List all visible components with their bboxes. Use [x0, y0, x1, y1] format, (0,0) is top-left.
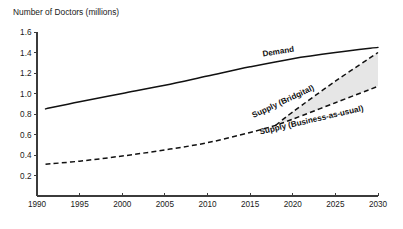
- y-tick-label: 0.8: [20, 110, 32, 119]
- y-tick-label: 1.4: [20, 49, 32, 58]
- y-tick-label: 1.2: [20, 69, 32, 78]
- x-tick-label: 2010: [198, 200, 217, 209]
- y-tick-label: 1.0: [20, 90, 32, 99]
- x-tick-label: 2005: [156, 200, 175, 209]
- y-tick-label: 0.2: [20, 172, 32, 181]
- series-label-demand: Demand: [262, 45, 295, 59]
- x-tick-label: 2030: [369, 200, 388, 209]
- x-tick-label: 2020: [284, 200, 303, 209]
- chart-axis-title: Number of Doctors (millions): [13, 7, 119, 17]
- y-tick-label: 0.4: [20, 151, 32, 160]
- x-tick-label: 2025: [326, 200, 345, 209]
- x-tick-label: 1995: [71, 200, 90, 209]
- x-tick-label: 2015: [241, 200, 260, 209]
- x-tick-label: 1990: [28, 200, 47, 209]
- doctors-supply-demand-chart: 0.20.40.60.81.01.21.41.61990199520002005…: [0, 0, 403, 229]
- y-tick-label: 0.6: [20, 131, 32, 140]
- x-tick-label: 2000: [113, 200, 132, 209]
- chart-series: [46, 47, 378, 164]
- y-tick-label: 1.6: [20, 28, 32, 37]
- chart-container: 0.20.40.60.81.01.21.41.61990199520002005…: [0, 0, 403, 229]
